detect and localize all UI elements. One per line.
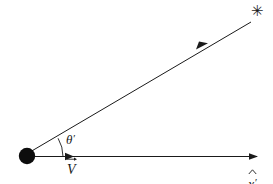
angle-prime-symbol: ′ xyxy=(73,132,76,144)
star-label: ✳ xyxy=(251,4,264,19)
x-axis-arrowhead-icon xyxy=(249,153,258,160)
diagram-canvas xyxy=(0,0,273,184)
angle-symbol: θ xyxy=(66,132,73,147)
x-axis-prime-symbol: ′ xyxy=(254,176,256,184)
angle-arc xyxy=(58,138,63,156)
velocity-vector-symbol: V xyxy=(67,162,76,177)
star-icon: ✳ xyxy=(251,3,264,19)
angle-label: θ′ xyxy=(66,133,75,146)
line-of-sight-ray xyxy=(30,22,251,152)
velocity-arrowhead-icon xyxy=(65,153,74,160)
vector-diagram: θ′ V x′ ✳ xyxy=(0,0,273,184)
velocity-vector-label: V xyxy=(67,163,273,177)
origin-dot-icon xyxy=(19,148,35,164)
x-axis-label: x′ xyxy=(248,177,273,184)
